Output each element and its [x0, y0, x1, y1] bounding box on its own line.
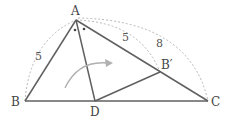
- label-a: A: [70, 4, 80, 18]
- label-c: C: [211, 95, 220, 109]
- geometry-diagram: A B C D B′ 5 5 8: [0, 0, 232, 120]
- segment-ad: [76, 20, 95, 101]
- length-ab-prime: 5: [122, 31, 129, 44]
- label-d: D: [90, 105, 100, 119]
- arrowhead-icon: [105, 59, 113, 67]
- segment-ac: [76, 20, 208, 101]
- segment-ab: [25, 20, 76, 101]
- length-ac: 8: [156, 37, 163, 50]
- angle-mark-bad: [74, 29, 77, 32]
- length-ab: 5: [35, 50, 42, 63]
- angle-mark-dab-prime: [83, 28, 86, 31]
- label-b-prime: B′: [161, 58, 173, 72]
- segment-db-prime: [95, 72, 160, 101]
- label-b: B: [11, 95, 20, 109]
